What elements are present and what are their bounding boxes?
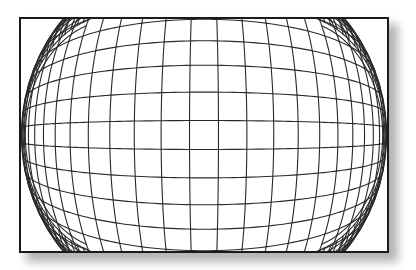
grid-line — [190, 19, 198, 251]
grid-line — [32, 188, 376, 250]
grid-line — [71, 19, 337, 29]
barrel-distortion-grid — [21, 19, 387, 251]
grid-line — [37, 19, 372, 72]
grid-line — [65, 19, 343, 34]
grid-line — [305, 19, 384, 251]
grid-line — [47, 216, 361, 251]
grid-line — [110, 19, 162, 251]
grid-line — [310, 19, 386, 251]
grid-line — [257, 19, 319, 251]
grid-line — [77, 19, 331, 25]
grid-line — [55, 19, 131, 251]
grid-line — [210, 19, 218, 251]
grid-line — [23, 154, 386, 178]
grid-line — [23, 92, 386, 116]
grid-line — [134, 19, 173, 251]
grid-line — [235, 19, 274, 251]
distorted-grid-frame — [19, 17, 389, 253]
grid-line — [88, 19, 150, 251]
grid-line — [28, 177, 380, 229]
grid-line — [77, 245, 331, 251]
grid-line — [246, 19, 298, 251]
grid-line — [53, 19, 355, 46]
grid-line — [28, 41, 380, 93]
grid-line — [223, 19, 247, 251]
grid-line — [277, 19, 353, 251]
grid-line — [22, 141, 387, 149]
grid-line — [37, 198, 372, 251]
grid-line — [47, 19, 361, 54]
grid-line — [22, 19, 98, 251]
grid-line — [53, 224, 355, 251]
grid-line — [22, 121, 387, 129]
grid-line — [32, 19, 376, 81]
grid-line — [65, 236, 343, 251]
grid-line — [71, 241, 337, 251]
grid-line — [24, 19, 103, 251]
grid-line — [161, 19, 185, 251]
